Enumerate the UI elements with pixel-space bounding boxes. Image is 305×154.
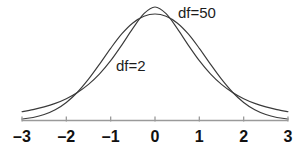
series-label-df50: df=50 (178, 4, 216, 21)
x-axis-tick-label: –2 (57, 128, 75, 146)
curve-df50 (22, 14, 288, 119)
x-axis-tick-label: 3 (284, 128, 293, 146)
curve-group (22, 7, 288, 119)
axis-group (22, 117, 288, 122)
x-axis-tick-label: 1 (195, 128, 204, 146)
curve-df2 (22, 7, 288, 112)
x-axis-tick-label: 2 (239, 128, 248, 146)
x-axis-tick-label: 0 (151, 128, 160, 146)
series-label-df2: df=2 (116, 57, 146, 74)
x-axis-tick-label: –3 (13, 128, 31, 146)
x-axis-tick-label: –1 (102, 128, 120, 146)
chart-figure: df=50 df=2 –3–2–10123 (0, 0, 305, 154)
